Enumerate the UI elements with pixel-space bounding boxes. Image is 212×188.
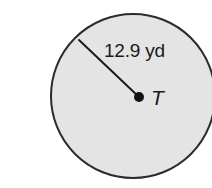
circle-diagram-svg	[0, 0, 212, 188]
center-point-label: T	[151, 87, 164, 108]
radius-measure-label: 12.9 yd	[104, 41, 165, 60]
center-point-dot	[134, 92, 144, 102]
circle-shape	[51, 14, 212, 178]
geometry-figure: 12.9 yd T	[0, 0, 212, 188]
